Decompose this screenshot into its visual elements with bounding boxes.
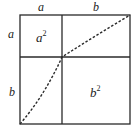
left-label-a: a — [8, 27, 14, 41]
square-diagram: a b a b a2 b2 — [0, 0, 136, 135]
region-b-squared: b2 — [90, 84, 101, 100]
left-label-b: b — [9, 85, 15, 99]
top-label-a: a — [38, 0, 44, 14]
top-label-b: b — [93, 0, 99, 14]
region-a-squared: a2 — [36, 29, 47, 45]
